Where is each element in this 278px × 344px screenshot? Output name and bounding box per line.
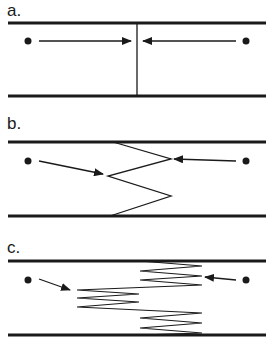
panel-a-right-point: [243, 38, 250, 45]
panel-c: [8, 261, 266, 335]
panel-a-left-point: [25, 38, 32, 45]
panel-c-left-arrow: [39, 279, 70, 290]
panel-b-zigzag-interface: [108, 142, 171, 216]
panel-c-right-point: [243, 277, 250, 284]
panel-b-left-point: [25, 158, 32, 165]
panel-c-left-point: [25, 277, 32, 284]
panel-b-left-arrow: [39, 161, 103, 174]
panel-c-zigzag-interface: [77, 261, 202, 335]
panel-b-right-point: [243, 158, 250, 165]
panel-b-right-arrow: [174, 159, 236, 161]
panel-a: [8, 23, 266, 96]
panel-b: [8, 142, 266, 216]
diagram-canvas: [0, 0, 278, 344]
panel-c-right-arrow: [205, 277, 236, 280]
